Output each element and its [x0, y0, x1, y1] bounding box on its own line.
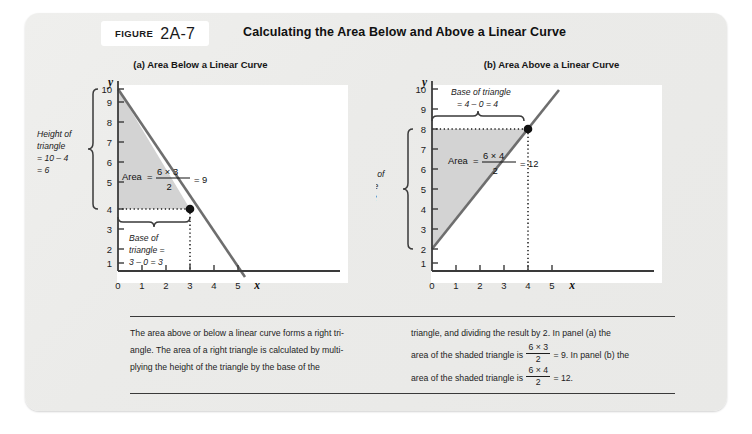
- panel-b-ytick-1: 1: [421, 258, 426, 269]
- panel-b-plot: 10 9 8 7 6 5 4 3 2 1 0 1 2 3 4: [376, 77, 727, 305]
- caption-left-line1: The area above or below a linear curve f…: [130, 325, 393, 342]
- figure-caption: The area above or below a linear curve f…: [130, 316, 675, 394]
- panel-b-ytick-5: 5: [421, 184, 426, 195]
- panel-b: (b) Area Above a Linear Curve: [376, 55, 727, 305]
- panel-a-ytick-7: 7: [107, 137, 112, 148]
- panel-b-area-denominator: 2: [492, 165, 497, 176]
- panel-a-ytick-8: 8: [107, 117, 112, 128]
- panel-a-xtick-0: 0: [115, 280, 120, 291]
- caption-fraction-2-denominator: 2: [526, 377, 550, 388]
- panel-a-area-denominator: 2: [166, 181, 171, 192]
- panel-a-base-label-line1: Base of: [129, 233, 160, 243]
- panel-b-x-axis-label: x: [568, 279, 575, 291]
- caption-left-line2: angle. The area of a right triangle is c…: [130, 342, 393, 359]
- panel-a-height-label-line1: Height of: [37, 129, 73, 139]
- panel-b-xtick-3: 3: [501, 280, 506, 291]
- panel-a-x-axis-label: x: [253, 279, 260, 291]
- panel-a-xtick-4: 4: [211, 280, 216, 291]
- panel-b-area-word: Area: [448, 155, 469, 166]
- caption-right-line3-text-a: area of the shaded triangle is: [411, 373, 523, 383]
- caption-column-left: The area above or below a linear curve f…: [130, 325, 393, 393]
- panel-b-ytick-3: 3: [421, 224, 426, 235]
- panel-b-ytick-8: 8: [421, 124, 426, 135]
- panel-b-area-numerator: 6 × 4: [483, 150, 504, 161]
- panel-a-xtick-1: 1: [139, 280, 144, 291]
- figure-title: Calculating the Area Below and Above a L…: [243, 25, 566, 39]
- caption-fraction-1: 6 × 3 2: [526, 342, 550, 365]
- caption-left-line3: plying the height of the triangle by the…: [130, 359, 393, 376]
- panel-a-ytick-3: 3: [107, 224, 112, 235]
- panel-a-xtick-3: 3: [187, 280, 192, 291]
- panel-b-xtick-5: 5: [549, 280, 554, 291]
- panel-b-height-label-line1: Height of: [376, 169, 386, 179]
- panel-a-area-word: Area: [122, 171, 143, 182]
- caption-fraction-2-numerator: 6 × 4: [526, 365, 550, 377]
- panel-b-height-label-line3: = 8 – 2: [376, 193, 377, 203]
- panel-b-base-label-line2: = 4 – 0 = 4: [457, 99, 498, 109]
- panel-a-point: [186, 205, 195, 214]
- panel-b-height-brace: [403, 129, 413, 249]
- panel-a-ytick-5: 5: [107, 177, 112, 188]
- caption-fraction-1-denominator: 2: [526, 354, 550, 365]
- caption-right-line3-text-b: = 12.: [553, 373, 573, 383]
- panel-a-ytick-6: 6: [107, 157, 112, 168]
- panels-container: (a) Area Below a Linear Curve: [25, 55, 727, 305]
- panel-a-height-label-line4: = 6: [37, 165, 49, 175]
- panel-b-ytick-7: 7: [421, 144, 426, 155]
- panel-a-base-label-line3: 3 – 0 = 3: [129, 257, 163, 267]
- panel-a-height-label-line3: = 10 – 4: [37, 153, 69, 163]
- panel-a-ytick-1: 1: [107, 258, 112, 269]
- panel-b-point: [524, 125, 533, 134]
- panel-b-title: (b) Area Above a Linear Curve: [376, 59, 727, 70]
- panel-b-ytick-4: 4: [421, 204, 426, 215]
- panel-b-xtick-1: 1: [453, 280, 458, 291]
- figure-card: Figure 2A-7 Calculating the Area Below a…: [25, 13, 727, 411]
- panel-a-area-numerator: 6 × 3: [157, 166, 178, 177]
- panel-b-ytick-6: 6: [421, 164, 426, 175]
- caption-right-line3: area of the shaded triangle is 6 × 4 2 =…: [411, 365, 674, 388]
- panel-a-plot: 10 9 8 7 6 5 4 3 2 1 0 1 2 3: [25, 77, 376, 305]
- panel-b-height-label-line2: triangle: [376, 181, 378, 191]
- panel-a-xtick-5: 5: [235, 280, 240, 291]
- figure-header: Figure 2A-7 Calculating the Area Below a…: [25, 13, 727, 53]
- panel-a-ytick-9: 9: [107, 97, 112, 108]
- panel-a-area-result: = 9: [194, 174, 207, 185]
- caption-column-right: triangle, and dividing the result by 2. …: [411, 325, 674, 393]
- caption-right-line2-text-b: = 9. In panel (b) the: [553, 350, 629, 360]
- caption-right-line2: area of the shaded triangle is 6 × 3 2 =…: [411, 342, 674, 365]
- panel-b-ytick-2: 2: [421, 244, 426, 255]
- panel-b-area-result: = 12: [520, 158, 539, 169]
- panel-a-xtick-2: 2: [163, 280, 168, 291]
- panel-a-title: (a) Area Below a Linear Curve: [25, 59, 376, 70]
- panel-a-height-label-line2: triangle: [37, 141, 65, 151]
- panel-a-ytick-2: 2: [107, 244, 112, 255]
- panel-a-y-axis-label: y: [106, 77, 114, 89]
- figure-number: 2A-7: [160, 25, 195, 43]
- panel-a-height-brace: [88, 89, 98, 209]
- figure-page: Figure 2A-7 Calculating the Area Below a…: [0, 0, 752, 434]
- panel-a-base-label-line2: triangle =: [129, 245, 165, 255]
- caption-right-line2-text-a: area of the shaded triangle is: [411, 350, 523, 360]
- panel-a-ytick-4: 4: [107, 204, 112, 215]
- panel-b-ytick-9: 9: [421, 104, 426, 115]
- panel-a-area-equals: =: [147, 171, 153, 182]
- panel-b-base-label-line1: Base of triangle: [451, 87, 511, 97]
- figure-label-word: Figure: [115, 28, 153, 39]
- panel-b-xtick-4: 4: [525, 280, 530, 291]
- panel-b-xtick-2: 2: [477, 280, 482, 291]
- caption-right-line1: triangle, and dividing the result by 2. …: [411, 325, 674, 342]
- panel-b-xtick-0: 0: [429, 280, 434, 291]
- caption-fraction-1-numerator: 6 × 3: [526, 342, 550, 354]
- caption-fraction-2: 6 × 4 2: [526, 365, 550, 388]
- figure-label-tab: Figure 2A-7: [101, 21, 209, 46]
- panel-b-y-axis-label: y: [420, 77, 428, 89]
- panel-a: (a) Area Below a Linear Curve: [25, 55, 376, 305]
- panel-b-area-equals: =: [473, 155, 479, 166]
